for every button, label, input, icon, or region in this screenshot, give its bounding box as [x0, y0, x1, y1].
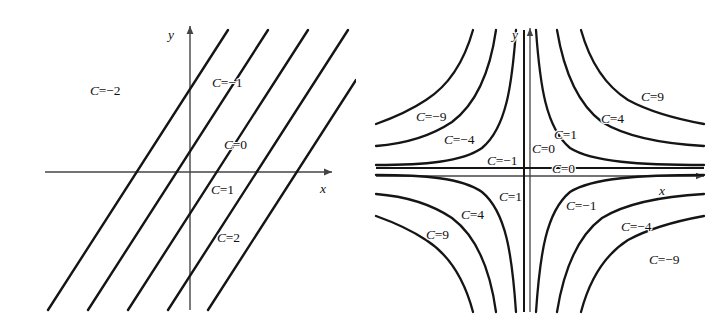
- level-label-c-4-upper-right: C=4: [601, 112, 624, 126]
- parallel-lines-plot: [0, 0, 356, 336]
- level-curve-c-0: [128, 30, 308, 310]
- level-label-c-minus-4-lower-right: C=−4: [621, 220, 651, 234]
- level-curves-lower-left: [376, 175, 516, 312]
- y-axis-arrowhead: [527, 28, 533, 36]
- level-label-c-0-horizontal: C=0: [552, 162, 575, 176]
- curve-c-9-lower-left: [376, 216, 473, 312]
- level-label-c-4-lower-left: C=4: [461, 208, 484, 222]
- level-curve-lines: [48, 30, 356, 310]
- level-label-c-minus-9-upper-left: C=−9: [416, 110, 446, 124]
- axes: [45, 26, 332, 310]
- level-label-c-minus-1-lower-right: C=−1: [566, 199, 596, 213]
- level-label-c-minus-2: C=−2: [90, 84, 120, 98]
- level-label-c-9-lower-left: C=9: [426, 228, 449, 242]
- x-axis-label-right: x: [659, 184, 665, 198]
- panel-parallel-lines: y x C=−2 C=−1 C=0 C=1 C=2: [0, 0, 356, 336]
- level-label-c-minus-4-upper-left: C=−4: [444, 133, 474, 147]
- level-label-c-9-upper-right: C=9: [641, 90, 664, 104]
- y-axis-arrowhead: [187, 26, 194, 34]
- level-label-c-minus-1-upper-left: C=−1: [487, 154, 517, 168]
- x-axis-label-left: x: [320, 182, 326, 196]
- level-label-c-1-lower-left: C=1: [499, 190, 522, 204]
- level-curve-c-1: [168, 30, 348, 310]
- level-label-c-minus-1: C=−1: [212, 76, 242, 90]
- level-curves-lower-right: [536, 175, 704, 312]
- level-curve-c-minus-1: [88, 30, 268, 310]
- level-label-c-1-upper-right: C=1: [554, 128, 577, 142]
- panel-hyperbolas: y x C=−9 C=−4 C=−1 C=0 C=0 C=1 C=4 C=9 C…: [356, 0, 713, 336]
- y-axis-label-left: y: [168, 28, 174, 42]
- curve-c-9-upper-right: [581, 30, 704, 124]
- level-label-c-1: C=1: [211, 183, 234, 197]
- curve-c-minus-4-upper-left: [376, 30, 496, 146]
- level-label-c-0-vertical: C=0: [532, 142, 555, 156]
- y-axis-label-right: y: [512, 28, 518, 42]
- level-curves-figure: y x C=−2 C=−1 C=0 C=1 C=2: [0, 0, 713, 336]
- level-label-c-0: C=0: [224, 138, 247, 152]
- hyperbola-plot: [356, 0, 713, 336]
- level-curve-c-minus-2: [48, 30, 228, 310]
- level-label-c-2: C=2: [217, 231, 240, 245]
- curve-c-4-upper-right: [557, 30, 704, 146]
- level-curves-upper-right: [536, 30, 704, 165]
- x-axis-arrowhead: [324, 169, 332, 176]
- level-label-c-minus-9-lower-right: C=−9: [649, 253, 679, 267]
